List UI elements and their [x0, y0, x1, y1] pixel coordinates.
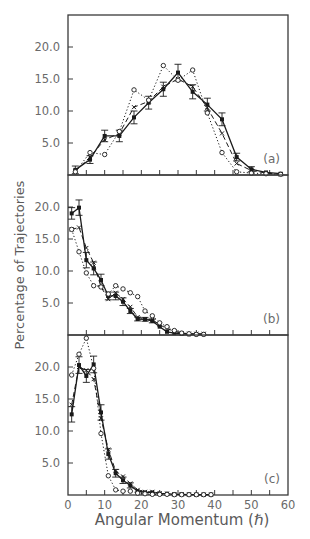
- filled-square-marker: [84, 374, 88, 378]
- open-circle-marker: [172, 328, 176, 332]
- open-circle-marker: [121, 489, 125, 493]
- open-circle-marker: [128, 291, 132, 295]
- open-circle-marker: [157, 321, 161, 325]
- open-circle-marker: [172, 492, 176, 496]
- open-circle-marker: [91, 366, 95, 370]
- filled-square-marker: [70, 412, 74, 416]
- open-circle-marker: [165, 324, 169, 328]
- open-circle-marker: [205, 111, 209, 115]
- filled-square-marker: [103, 134, 107, 138]
- open-circle-marker: [73, 170, 77, 174]
- open-circle-marker: [143, 309, 147, 313]
- filled-square-marker: [132, 115, 136, 119]
- y-tick-label: 10.0: [34, 104, 60, 118]
- open-circle-marker: [209, 492, 213, 496]
- figure: 5.010.015.020.0(a)5.010.015.020.0(b)5.01…: [0, 0, 310, 539]
- open-circle-marker: [150, 492, 154, 496]
- plot-frame: [68, 175, 288, 335]
- open-circle-marker: [135, 294, 139, 298]
- open-circle-marker: [99, 431, 103, 435]
- open-circle-marker: [91, 284, 95, 288]
- open-circle-marker: [128, 489, 132, 493]
- y-axis-title: Percentage of Trajectories: [12, 180, 27, 349]
- y-tick-label: 15.0: [34, 72, 60, 86]
- filled-square-marker: [176, 71, 180, 75]
- open-circle-marker: [77, 352, 81, 356]
- open-circle-marker: [179, 492, 183, 496]
- y-tick-label: 20.0: [34, 40, 60, 54]
- cross-marker: [132, 105, 136, 109]
- plot-frame: [68, 15, 288, 175]
- x-tick-label: 10: [97, 498, 112, 512]
- series-open-circle-dotted: [73, 63, 283, 176]
- y-tick-label: 10.0: [34, 264, 60, 278]
- series-line: [75, 73, 280, 174]
- open-circle-marker: [132, 88, 136, 92]
- y-tick-label: 5.0: [42, 136, 60, 150]
- filled-square-marker: [77, 206, 81, 210]
- y-tick-label: 15.0: [34, 232, 60, 246]
- filled-square-marker: [106, 452, 110, 456]
- open-circle-marker: [146, 98, 150, 102]
- series-line: [72, 367, 211, 495]
- x-tick-label: 40: [207, 498, 222, 512]
- series-line: [72, 338, 211, 494]
- panel-label: (b): [263, 312, 280, 326]
- filled-square-marker: [84, 258, 88, 262]
- series-cross-dashed: [73, 77, 282, 176]
- open-circle-marker: [121, 287, 125, 291]
- x-tick-label: 20: [134, 498, 149, 512]
- open-circle-marker: [234, 170, 238, 174]
- open-circle-marker: [84, 336, 88, 340]
- panels-group: 5.010.015.020.0(a)5.010.015.020.0(b)5.01…: [34, 15, 295, 512]
- filled-square-marker: [70, 211, 74, 215]
- open-circle-marker: [102, 152, 106, 156]
- open-circle-marker: [77, 250, 81, 254]
- y-tick-label: 5.0: [42, 296, 60, 310]
- open-circle-marker: [220, 150, 224, 154]
- x-tick-label: 0: [64, 498, 71, 512]
- filled-square-marker: [128, 309, 132, 313]
- open-circle-marker: [161, 63, 165, 67]
- filled-square-marker: [220, 117, 224, 121]
- panel-label: (a): [263, 152, 280, 166]
- open-circle-marker: [88, 150, 92, 154]
- series-line: [72, 208, 204, 335]
- series-line: [72, 364, 211, 494]
- panel-c: 5.010.015.020.00102030405060(c): [34, 335, 295, 512]
- open-circle-marker: [106, 474, 110, 478]
- open-circle-marker: [69, 227, 73, 231]
- series-cross-dashed: [70, 365, 213, 497]
- y-tick-label: 15.0: [34, 392, 60, 406]
- cross-marker: [235, 161, 239, 165]
- open-circle-marker: [150, 314, 154, 318]
- open-circle-marker: [194, 492, 198, 496]
- open-circle-marker: [84, 271, 88, 275]
- open-circle-marker: [165, 492, 169, 496]
- open-circle-marker: [99, 285, 103, 289]
- panel-b: 5.010.015.020.0(b): [34, 175, 288, 337]
- series-filled-square-solid: [68, 356, 213, 497]
- filled-square-marker: [235, 155, 239, 159]
- y-tick-label: 10.0: [34, 424, 60, 438]
- open-circle-marker: [157, 492, 161, 496]
- open-circle-marker: [187, 492, 191, 496]
- filled-square-marker: [191, 90, 195, 94]
- open-circle-marker: [176, 78, 180, 82]
- open-circle-marker: [117, 129, 121, 133]
- open-circle-marker: [143, 492, 147, 496]
- panel-label: (c): [264, 472, 280, 486]
- open-circle-marker: [201, 492, 205, 496]
- stacked-line-chart: 5.010.015.020.0(a)5.010.015.020.0(b)5.01…: [0, 0, 310, 539]
- x-axis-title: Angular Momentum (ℏ): [95, 511, 270, 529]
- x-tick-label: 30: [171, 498, 186, 512]
- panel-a: 5.010.015.020.0(a): [34, 15, 288, 177]
- x-tick-label: 50: [244, 498, 259, 512]
- open-circle-marker: [106, 292, 110, 296]
- cross-marker: [220, 131, 224, 135]
- open-circle-marker: [113, 284, 117, 288]
- open-circle-marker: [69, 373, 73, 377]
- open-circle-marker: [190, 68, 194, 72]
- x-tick-label: 60: [281, 498, 296, 512]
- y-tick-label: 20.0: [34, 360, 60, 374]
